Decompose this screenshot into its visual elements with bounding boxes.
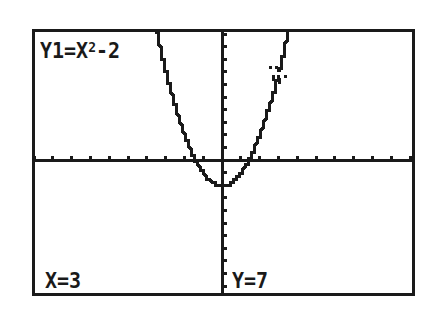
trace-x-readout: X=3 (45, 271, 81, 292)
y-axis (221, 32, 224, 293)
equation-suffix: -2 (96, 38, 120, 63)
y-tick (224, 33, 227, 36)
x-tick (239, 156, 242, 159)
x-tick (371, 156, 374, 159)
x-tick (333, 156, 336, 159)
x-tick (164, 156, 167, 159)
calculator-graph-screen: Y1=X2-2 X=3 Y=7 (32, 29, 415, 296)
x-tick (51, 156, 54, 159)
y-tick (224, 96, 227, 99)
y-tick (224, 83, 227, 86)
y-tick (224, 171, 227, 174)
equation-prefix: Y1=X (40, 38, 88, 63)
y-tick (224, 108, 227, 111)
trace-y-readout: Y=7 (232, 271, 268, 292)
x-tick (277, 156, 280, 159)
x-tick (70, 156, 73, 159)
y-tick (224, 133, 227, 136)
equation-exponent: 2 (88, 39, 96, 55)
x-tick (258, 156, 261, 159)
y-tick (224, 196, 227, 199)
x-tick (89, 156, 92, 159)
y-tick (224, 234, 227, 237)
y-tick (224, 285, 227, 288)
x-tick (315, 156, 318, 159)
y-tick (224, 58, 227, 61)
x-tick (352, 156, 355, 159)
y-tick (224, 121, 227, 124)
x-tick (35, 156, 36, 159)
x-tick (108, 156, 111, 159)
graph-plot (35, 32, 412, 293)
y-tick (224, 247, 227, 250)
x-tick (409, 156, 412, 159)
y-tick (224, 70, 227, 73)
x-tick (127, 156, 130, 159)
equation-label: Y1=X2-2 (40, 41, 120, 62)
x-tick (296, 156, 299, 159)
x-tick (183, 156, 186, 159)
y-tick (224, 146, 227, 149)
x-tick (145, 156, 148, 159)
y-tick (224, 222, 227, 225)
y-tick (224, 272, 227, 275)
y-tick (224, 259, 227, 262)
x-tick (202, 156, 205, 159)
x-tick (390, 156, 393, 159)
y-tick (224, 45, 227, 48)
y-tick (224, 209, 227, 212)
